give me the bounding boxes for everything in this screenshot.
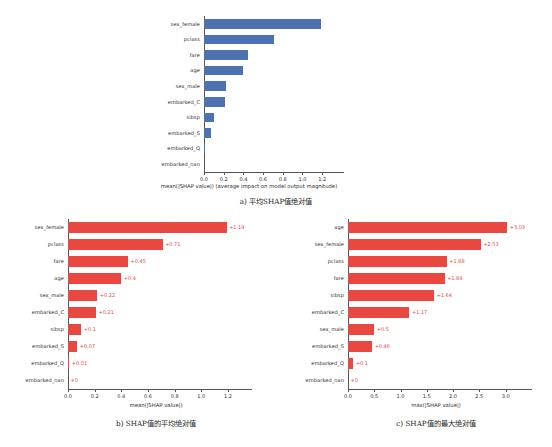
y-tick-label: sex_male (0, 292, 64, 298)
bar (68, 324, 81, 335)
x-tick-mark (283, 173, 284, 175)
bar-value-label: +0.46 (375, 344, 390, 349)
bar-row (348, 324, 524, 335)
bar (348, 324, 374, 335)
x-tick-label: 1.0 (397, 393, 405, 399)
x-tick-label: 0.6 (259, 176, 267, 182)
bar (204, 128, 211, 138)
x-tick-mark (506, 390, 507, 392)
bar-value-label: +0 (71, 378, 78, 383)
x-tick-label: 0.0 (344, 393, 352, 399)
x-tick-mark (322, 173, 323, 175)
bar (204, 81, 226, 91)
bar-value-label: +0.1 (84, 327, 96, 332)
bar-value-label: +0.71 (165, 242, 180, 247)
x-axis-title-c: max(|SHAP value|) (348, 402, 524, 408)
y-tick-label: age (80, 67, 200, 73)
bar-row (204, 159, 332, 169)
x-tick-mark (302, 173, 303, 175)
bar (204, 35, 274, 45)
bar (348, 307, 409, 318)
x-tick-mark (175, 390, 176, 392)
bar-row (204, 144, 332, 154)
y-tick-label: fare (0, 258, 64, 264)
x-tick-label: 2.0 (449, 393, 457, 399)
bar-row (204, 81, 332, 91)
x-tick-mark (204, 173, 205, 175)
y-tick-label: pclass (80, 36, 200, 42)
bar (204, 66, 243, 76)
bar-row (348, 222, 524, 233)
y-tick-label: sex_female (80, 21, 200, 27)
x-tick-mark (243, 173, 244, 175)
x-tick-label: 1.0 (298, 176, 306, 182)
figure-root: 0.00.20.40.60.81.01.2 mean(|SHAP value|)… (0, 0, 552, 447)
bar-value-label: +0.21 (99, 310, 114, 315)
x-tick-mark (228, 390, 229, 392)
chart-mean-shap-blue: 0.00.20.40.60.81.01.2 mean(|SHAP value|)… (0, 0, 552, 200)
bar (68, 341, 77, 352)
y-tick-label: embarked_Q (0, 360, 64, 366)
bar-row (68, 222, 244, 233)
bar (348, 239, 481, 250)
caption-c: c) SHAP值的最大绝对值 (328, 418, 544, 428)
y-tick-label: pclass (224, 258, 344, 264)
bar-value-label: +1.64 (437, 293, 452, 298)
plot-area-a (204, 16, 332, 172)
bar-value-label: +0.07 (80, 344, 95, 349)
bar-row (68, 358, 244, 369)
bar-row (68, 307, 244, 318)
y-tick-label: age (224, 224, 344, 230)
bar-value-label: +0.1 (356, 361, 368, 366)
y-tick-label: embarked_S (0, 343, 64, 349)
x-tick-mark (374, 390, 375, 392)
bar-value-label: +3.03 (510, 225, 525, 230)
x-tick-mark (263, 173, 264, 175)
bar-value-label: +0.4 (124, 276, 136, 281)
x-axis-line-c (348, 389, 532, 390)
bar-row (348, 375, 524, 386)
x-tick-label: 0.8 (171, 393, 179, 399)
bar-row (68, 290, 244, 301)
bar (68, 358, 69, 369)
y-tick-label: embarked_C (224, 309, 344, 315)
bar-value-label: +2.53 (483, 242, 498, 247)
y-tick-label: embarked_S (224, 343, 344, 349)
bar (348, 222, 507, 233)
bar-row (68, 375, 244, 386)
bar-row (204, 97, 332, 107)
bar-row (348, 273, 524, 284)
x-tick-label: 1.2 (224, 393, 232, 399)
bar-value-label: +0 (351, 378, 358, 383)
bar (204, 113, 214, 123)
x-tick-mark (68, 390, 69, 392)
bar-row (204, 35, 332, 45)
bar (204, 97, 225, 107)
y-tick-label: pclass (0, 241, 64, 247)
y-tick-label: sibsp (0, 326, 64, 332)
y-tick-label: fare (224, 275, 344, 281)
bar-value-label: +0.22 (100, 293, 115, 298)
y-tick-label: embarked_nan (224, 377, 344, 383)
x-tick-label: 0.5 (370, 393, 378, 399)
x-tick-mark (224, 173, 225, 175)
y-tick-label: sex_male (80, 83, 200, 89)
x-tick-mark (401, 390, 402, 392)
bar (68, 239, 163, 250)
bar-row (204, 113, 332, 123)
bar-row (348, 358, 524, 369)
x-tick-mark (479, 390, 480, 392)
bar (348, 341, 372, 352)
x-tick-mark (201, 390, 202, 392)
y-tick-label: embarked_Q (80, 145, 200, 151)
x-tick-label: 0.4 (117, 393, 125, 399)
caption-b: b) SHAP值的平均绝对值 (48, 418, 264, 428)
x-tick-label: 2.5 (475, 393, 483, 399)
x-axis-title-b: mean(|SHAP value|) (68, 402, 244, 408)
caption-a: a) 平均SHAP值绝对值 (176, 196, 376, 206)
bar (348, 256, 447, 267)
y-tick-label: fare (80, 52, 200, 58)
x-tick-mark (453, 390, 454, 392)
y-tick-label: embarked_S (80, 130, 200, 136)
bar-row (348, 307, 524, 318)
